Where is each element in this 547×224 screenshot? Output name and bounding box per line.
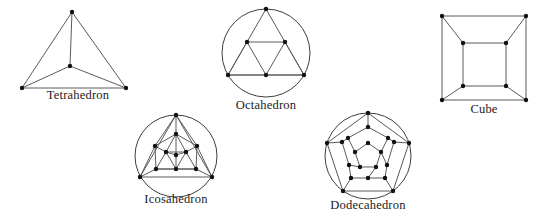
graph-cube-edges: [442, 16, 526, 100]
graph-vertex: [174, 167, 178, 171]
graph-dodecahedron-canvas: [322, 112, 414, 200]
graph-edge: [348, 127, 368, 138]
graph-vertex: [461, 41, 465, 45]
graph-edge: [156, 152, 166, 169]
graph-edge: [387, 142, 394, 165]
graph-vertex: [210, 175, 214, 179]
graph-edge: [442, 86, 463, 100]
graph-edge: [140, 146, 155, 177]
graph-edge: [342, 142, 349, 165]
graph-edge: [442, 16, 463, 43]
graph-vertex: [392, 140, 396, 144]
graph-vertex: [195, 144, 199, 148]
graph-edge: [348, 138, 355, 152]
graph-edge: [506, 16, 526, 43]
caption-octahedron: Octahedron: [214, 98, 318, 113]
graph-vertex: [184, 150, 188, 154]
graph-vertex: [174, 132, 178, 136]
graph-edge: [72, 12, 126, 88]
graph-vertex: [174, 113, 178, 117]
graph-edge: [266, 42, 285, 75]
graph-edge: [228, 42, 247, 75]
graph-cube-vertices: [440, 14, 528, 102]
graph-vertex: [138, 175, 142, 179]
graph-edge: [176, 115, 212, 177]
graph-edge: [394, 142, 409, 143]
graph-vertex: [407, 141, 411, 145]
graph-edge: [343, 178, 351, 191]
graph-vertex: [194, 167, 198, 171]
graph-edge: [506, 86, 526, 100]
graph-tetrahedron: [8, 4, 148, 90]
graph-edge: [247, 9, 266, 42]
graph-cube-canvas: [440, 14, 530, 102]
caption-icosahedron: Icosahedron: [126, 192, 226, 207]
caption-tetrahedron: Tetrahedron: [8, 88, 148, 103]
caption-dodecahedron: Dodecahedron: [318, 198, 418, 213]
graph-vertex: [349, 176, 353, 180]
graph-vertex: [164, 150, 168, 154]
graph-edge: [285, 42, 304, 75]
graph-vertex: [504, 84, 508, 88]
graph-edge: [70, 12, 72, 66]
graph-vertex: [461, 84, 465, 88]
graph-icosahedron-canvas: [128, 114, 224, 194]
graph-octahedron-edges: [228, 9, 304, 75]
caption-cube: Cube: [438, 102, 530, 117]
graph-vertex: [153, 144, 157, 148]
graph-vertex: [383, 176, 387, 180]
graph-edge: [266, 9, 285, 42]
graph-vertex: [524, 14, 528, 18]
graph-edge: [247, 42, 266, 75]
graph-edge: [368, 143, 381, 152]
platonic-solids-figure: TetrahedronOctahedronCubeIcosahedronDode…: [0, 0, 547, 224]
graph-tetrahedron-vertices: [20, 10, 128, 90]
graph-octahedron-canvas: [218, 8, 314, 98]
graph-edge: [327, 142, 342, 143]
graph-edge: [355, 152, 360, 167]
graph-vertex: [174, 153, 178, 157]
graph-cube: [440, 14, 530, 102]
graph-icosahedron: [128, 114, 224, 194]
graph-vertex: [264, 7, 268, 11]
graph-tetrahedron-edges: [22, 12, 126, 88]
graph-edge: [385, 178, 393, 191]
graph-vertex: [366, 141, 370, 145]
graph-edge: [368, 127, 388, 138]
graph-vertex: [226, 73, 230, 77]
graph-vertex: [283, 40, 287, 44]
graph-vertex: [504, 41, 508, 45]
graph-octahedron-outer-circle: [222, 9, 310, 97]
graph-vertex: [366, 176, 370, 180]
graph-edge: [376, 152, 381, 167]
graph-vertex: [385, 163, 389, 167]
graph-vertex: [245, 40, 249, 44]
graph-vertex: [68, 64, 72, 68]
graph-vertex: [358, 165, 362, 169]
graph-vertex: [340, 140, 344, 144]
graph-vertex: [325, 141, 329, 145]
graph-vertex: [366, 111, 370, 115]
graph-edge: [197, 146, 212, 177]
graph-vertex: [366, 125, 370, 129]
graph-vertex: [347, 163, 351, 167]
graph-vertex: [386, 136, 390, 140]
graph-dodecahedron: [322, 112, 414, 200]
graph-edge: [186, 152, 196, 169]
graph-vertex: [440, 14, 444, 18]
graph-octahedron: [218, 8, 314, 98]
graph-vertex: [353, 150, 357, 154]
graph-vertex: [346, 136, 350, 140]
graph-vertex: [374, 165, 378, 169]
graph-vertex: [341, 189, 345, 193]
graph-tetrahedron-canvas: [8, 4, 148, 90]
graph-vertex: [302, 73, 306, 77]
graph-edge: [140, 115, 176, 177]
graph-vertex: [154, 167, 158, 171]
graph-vertex: [391, 189, 395, 193]
graph-edge: [381, 138, 388, 152]
graph-vertex: [379, 150, 383, 154]
graph-edge: [355, 143, 368, 152]
graph-vertex: [264, 73, 268, 77]
graph-vertex: [70, 10, 74, 14]
